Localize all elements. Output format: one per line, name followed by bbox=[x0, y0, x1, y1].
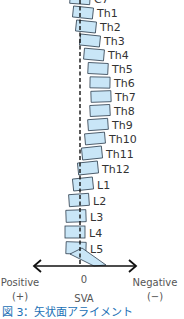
vertebra-label: Th7 bbox=[114, 91, 136, 104]
vertebra-label: L5 bbox=[90, 243, 103, 256]
vertebra-l4: L4 bbox=[65, 226, 102, 240]
vertebra-label: L1 bbox=[97, 179, 110, 192]
vertebra-label: Th5 bbox=[111, 63, 133, 76]
vertebra-label: Th8 bbox=[113, 105, 135, 118]
vertebra-th1: Th1 bbox=[72, 6, 117, 20]
negative-sign: (−) bbox=[147, 291, 163, 302]
vertebra-th5: Th5 bbox=[88, 62, 133, 76]
vertebra-body bbox=[81, 146, 102, 160]
vertebra-th8: Th8 bbox=[90, 104, 135, 118]
vertebra-th3: Th3 bbox=[79, 34, 124, 48]
figure-caption: 図 3：矢状面アライメント bbox=[2, 303, 134, 319]
vertebra-th10: Th10 bbox=[85, 132, 137, 146]
vertebra-body bbox=[66, 210, 86, 223]
vertebra-th11: Th11 bbox=[81, 146, 133, 161]
vertebra-c7: C7 bbox=[70, 0, 109, 6]
negative-label: Negative bbox=[133, 277, 178, 288]
vertebra-label: Th11 bbox=[105, 148, 134, 161]
vertebra-label: Th1 bbox=[96, 7, 118, 20]
vertebra-label: Th4 bbox=[107, 49, 129, 62]
zero-label: 0 bbox=[81, 274, 87, 285]
vertebra-body bbox=[75, 20, 96, 33]
vertebra-label: Th9 bbox=[111, 119, 133, 132]
vertebra-label: Th6 bbox=[113, 77, 135, 90]
vertebra-body bbox=[84, 48, 105, 61]
vertebra-body bbox=[65, 226, 85, 238]
vertebra-label: L4 bbox=[89, 227, 102, 240]
vertebra-body bbox=[90, 77, 110, 88]
vertebra-body bbox=[85, 132, 106, 145]
vertebra-body bbox=[90, 104, 111, 116]
vertebra-label: L2 bbox=[93, 195, 106, 208]
vertebra-th9: Th9 bbox=[88, 118, 133, 132]
vertebra-body bbox=[69, 193, 90, 206]
vertebrae-group: C7Th1Th2Th3Th4Th5Th6Th7Th8Th9Th10Th11Th1… bbox=[65, 0, 137, 256]
vertebra-th4: Th4 bbox=[84, 48, 129, 62]
vertebra-body bbox=[72, 177, 93, 191]
vertebra-th6: Th6 bbox=[90, 77, 135, 90]
vertebra-body bbox=[91, 91, 111, 103]
vertebra-label: L3 bbox=[90, 211, 103, 224]
vertebra-label: Th12 bbox=[101, 163, 130, 176]
vertebra-th7: Th7 bbox=[91, 91, 136, 104]
vertebra-body bbox=[88, 118, 109, 130]
vertebra-label: Th3 bbox=[103, 35, 125, 48]
vertebra-l2: L2 bbox=[69, 193, 107, 208]
vertebra-label: Th10 bbox=[108, 133, 137, 146]
vertebra-body bbox=[79, 34, 100, 47]
vertebra-l3: L3 bbox=[66, 210, 103, 224]
positive-sign: (+) bbox=[12, 291, 28, 302]
vertebra-label: C7 bbox=[94, 0, 109, 6]
vertebra-th2: Th2 bbox=[75, 20, 120, 34]
positive-label: Positive bbox=[1, 277, 40, 288]
vertebra-label: Th2 bbox=[99, 21, 121, 34]
vertebra-body bbox=[72, 6, 93, 19]
vertebra-body bbox=[88, 62, 109, 74]
vertebra-th12: Th12 bbox=[77, 161, 129, 176]
vertebra-l1: L1 bbox=[72, 177, 110, 192]
